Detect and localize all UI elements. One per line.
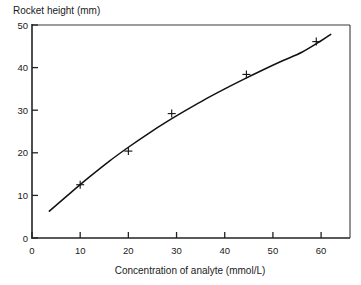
x-axis-title: Concentration of analyte (mmol/L) [115, 265, 266, 276]
y-tick-label: 30 [17, 105, 28, 116]
y-axis-title: Rocket height (mm) [13, 5, 100, 16]
chart-figure: Rocket height (mm) 01020304050 010203040… [0, 0, 361, 285]
x-tick-label: 20 [123, 245, 134, 256]
y-tick-label: 20 [17, 147, 28, 158]
chart-background [0, 0, 361, 285]
y-tick-label: 10 [17, 190, 28, 201]
y-tick-label: 50 [17, 20, 28, 31]
y-tick-label: 0 [23, 233, 28, 244]
x-tick-label: 50 [268, 245, 279, 256]
x-tick-label: 0 [29, 245, 34, 256]
y-tick-label: 40 [17, 62, 28, 73]
x-tick-label: 40 [219, 245, 230, 256]
calibration-curve-chart: Rocket height (mm) 01020304050 010203040… [0, 0, 361, 285]
x-tick-label: 60 [316, 245, 327, 256]
x-tick-label: 10 [75, 245, 86, 256]
x-tick-label: 30 [171, 245, 182, 256]
